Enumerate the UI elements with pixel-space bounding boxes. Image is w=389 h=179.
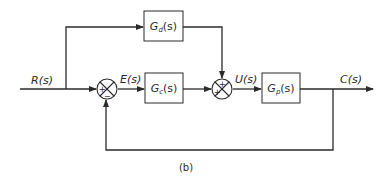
control-signal-label: U(s) — [235, 73, 257, 86]
block-diagram: + − + + Gd(s) Gc(s) Gp(s) R(s) E(s) U(s)… — [0, 0, 389, 179]
sum2-plus-left-sign: + — [214, 88, 221, 97]
output-signal-label: C(s) — [340, 73, 362, 86]
gp-label: Gp(s) — [267, 82, 294, 96]
sum1-minus-sign: − — [104, 92, 111, 101]
input-signal-label: R(s) — [31, 74, 53, 87]
error-signal-label: E(s) — [120, 73, 141, 86]
gd-label: Gd(s) — [150, 20, 177, 34]
gc-label: Gc(s) — [151, 82, 178, 96]
sum2-plus-top-sign: + — [219, 80, 226, 89]
figure-caption: (b) — [179, 162, 193, 173]
gd-output-line — [183, 27, 222, 78]
